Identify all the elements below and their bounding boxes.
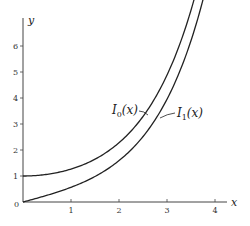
y-tick-label: 3 [13, 120, 18, 129]
curve-i0 [23, 0, 195, 176]
y-tick-label: 1 [13, 172, 18, 181]
origin-label: 0 [14, 200, 19, 209]
x-axis-label: x [231, 196, 238, 209]
curve-i1 [23, 0, 205, 202]
y-tick-label: 6 [13, 42, 18, 51]
label-i0: I0(x) [111, 103, 138, 119]
y-tick-label: 4 [13, 94, 18, 103]
x-tick-label: 2 [117, 206, 122, 215]
x-ticks: 1234 [69, 199, 218, 215]
y-tick-label: 2 [13, 146, 18, 155]
bessel-function-chart: y x 0 1234 123456 I0(x) I1(x) [0, 0, 250, 226]
label-i1: I1(x) [176, 106, 203, 122]
x-tick-label: 4 [213, 206, 218, 215]
y-tick-label: 5 [13, 68, 18, 77]
y-ticks: 123456 [13, 42, 23, 181]
leader-i1 [160, 113, 175, 118]
x-tick-label: 3 [165, 206, 170, 215]
x-tick-label: 1 [69, 206, 74, 215]
y-axis-label: y [27, 14, 35, 27]
